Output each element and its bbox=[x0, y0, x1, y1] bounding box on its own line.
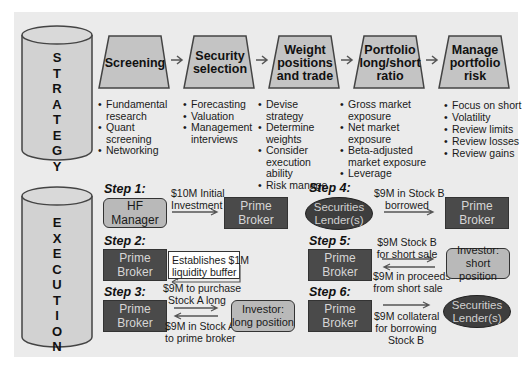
step-2-loop-arrow bbox=[0, 0, 528, 365]
